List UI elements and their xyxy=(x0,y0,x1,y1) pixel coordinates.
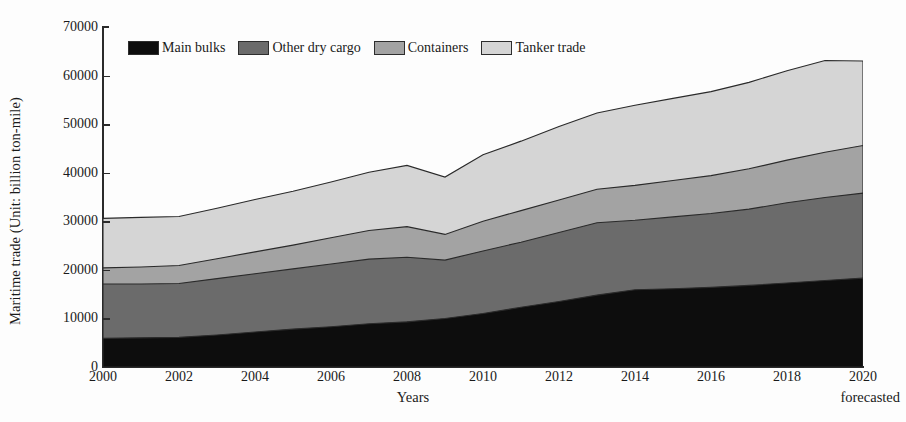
x-tick-label: 2016 xyxy=(681,369,741,385)
x-tick-label: 2012 xyxy=(529,369,589,385)
x-axis-title: Years xyxy=(0,389,906,406)
y-tick-mark xyxy=(103,76,110,77)
stacked-area-plot xyxy=(103,27,863,367)
chart-legend: Main bulksOther dry cargoContainersTanke… xyxy=(128,40,586,56)
x-tick-label: 2002 xyxy=(149,369,209,385)
legend-label: Containers xyxy=(408,40,469,56)
y-tick-label: 40000 xyxy=(42,167,98,179)
forecast-annotation: forecasted xyxy=(840,389,900,406)
x-tick-label: 2010 xyxy=(453,369,513,385)
y-tick-mark xyxy=(103,173,110,174)
y-tick-mark xyxy=(103,318,110,319)
y-tick-label: 10000 xyxy=(42,312,98,324)
y-axis-tick-labels: 010000200003000040000500006000070000 xyxy=(40,0,98,422)
x-tick-label: 2004 xyxy=(225,369,285,385)
legend-item[interactable]: Containers xyxy=(374,40,469,56)
y-tick-label: 60000 xyxy=(42,70,98,82)
legend-item[interactable]: Tanker trade xyxy=(481,40,585,56)
y-tick-label: 20000 xyxy=(42,264,98,276)
x-tick-label: 2018 xyxy=(757,369,817,385)
y-tick-mark xyxy=(103,270,110,271)
y-tick-label: 70000 xyxy=(42,21,98,33)
x-tick-label: 2000 xyxy=(73,369,133,385)
y-tick-mark xyxy=(103,124,110,125)
chart-figure: Maritime trade (Unit: billion ton-mile) … xyxy=(0,0,906,422)
x-tick-label: 2008 xyxy=(377,369,437,385)
x-axis-tick-labels: 2000200220042006200820102012201420162018… xyxy=(0,369,906,389)
x-axis-title-text: Years xyxy=(397,389,429,405)
x-tick-label: 2020 xyxy=(833,369,893,385)
area-series-group xyxy=(103,27,863,368)
x-tick-label: 2014 xyxy=(605,369,665,385)
y-tick-label: 50000 xyxy=(42,118,98,130)
legend-swatch-icon xyxy=(374,41,405,55)
legend-swatch-icon xyxy=(128,41,159,55)
legend-swatch-icon xyxy=(481,41,512,55)
legend-label: Main bulks xyxy=(162,40,225,56)
legend-swatch-icon xyxy=(238,41,269,55)
legend-label: Other dry cargo xyxy=(272,40,360,56)
y-axis-title: Maritime trade (Unit: billion ton-mile) xyxy=(0,0,30,422)
legend-item[interactable]: Main bulks xyxy=(128,40,225,56)
y-tick-mark xyxy=(103,221,110,222)
legend-label: Tanker trade xyxy=(515,40,585,56)
legend-item[interactable]: Other dry cargo xyxy=(238,40,360,56)
x-tick-label: 2006 xyxy=(301,369,361,385)
y-tick-label: 30000 xyxy=(42,215,98,227)
